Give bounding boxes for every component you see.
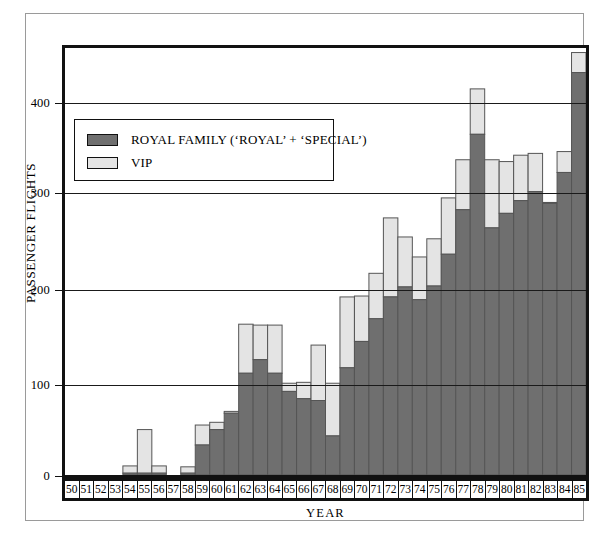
bar-segment: [340, 297, 354, 368]
x-tick-68: 68: [326, 481, 341, 498]
x-tick-54: 54: [123, 481, 138, 498]
x-tick-51: 51: [80, 481, 95, 498]
x-tick-61: 61: [225, 481, 240, 498]
bar-segment: [224, 413, 238, 475]
bar-segment: [369, 319, 383, 475]
x-tick-64: 64: [268, 481, 283, 498]
bar-segment: [137, 430, 151, 474]
x-tick-58: 58: [181, 481, 196, 498]
figure-chart-passenger-flights: PASSENGER FLIGHTS 400 300 200 100 0 ROYA…: [0, 0, 611, 542]
bar-segment: [572, 73, 586, 475]
bar-segment: [412, 300, 426, 475]
bar-segment: [297, 399, 311, 475]
bar-segment: [123, 473, 137, 475]
bar-segment: [514, 201, 528, 475]
x-tick-71: 71: [370, 481, 385, 498]
bar-segment: [253, 325, 267, 360]
gridline-100: [65, 385, 586, 386]
bar-segment: [398, 237, 412, 287]
bar-segment: [311, 345, 325, 400]
bar-segment: [456, 210, 470, 475]
y-tick-label-400: 400: [10, 97, 50, 109]
bar-segment: [441, 254, 455, 475]
bar-segment: [326, 383, 340, 436]
bar-segment: [195, 425, 209, 445]
bar-segment: [427, 239, 441, 286]
bar-segment: [152, 466, 166, 473]
bar-segment: [557, 172, 571, 475]
x-tick-75: 75: [428, 481, 443, 498]
y-tick-mark-100: [55, 385, 62, 386]
bar-segment: [499, 213, 513, 475]
legend-swatch-royal-family: [87, 134, 118, 146]
x-tick-67: 67: [312, 481, 327, 498]
x-tick-52: 52: [94, 481, 109, 498]
bar-segment: [311, 401, 325, 475]
bar-segment: [181, 473, 195, 475]
x-tick-60: 60: [210, 481, 225, 498]
legend-label-royal-family: ROYAL FAMILY (‘ROYAL’ + ‘SPECIAL’): [131, 132, 367, 148]
x-tick-70: 70: [355, 481, 370, 498]
bar-segment: [239, 324, 253, 373]
bar-segment: [572, 53, 586, 73]
plot-area: [62, 45, 589, 478]
x-tick-78: 78: [471, 481, 486, 498]
bar-segment: [543, 203, 557, 475]
bar-segment: [557, 152, 571, 173]
plot-inner: [65, 48, 586, 475]
bar-segment: [499, 162, 513, 214]
bar-segment: [253, 360, 267, 475]
bar-segment: [181, 467, 195, 473]
x-tick-65: 65: [283, 481, 298, 498]
stacked-bars: [65, 48, 586, 475]
x-tick-72: 72: [384, 481, 399, 498]
x-tick-79: 79: [486, 481, 501, 498]
bar-segment: [239, 373, 253, 475]
x-tick-66: 66: [297, 481, 312, 498]
x-tick-63: 63: [254, 481, 269, 498]
x-axis-tick-strip: 5051525354555657585960616263646566676869…: [62, 478, 589, 501]
bar-segment: [152, 473, 166, 475]
x-tick-81: 81: [515, 481, 530, 498]
y-tick-label-300: 300: [10, 187, 50, 199]
x-tick-76: 76: [442, 481, 457, 498]
bar-segment: [354, 341, 368, 475]
bar-segment: [369, 273, 383, 318]
bar-segment: [195, 445, 209, 475]
y-tick-mark-0: [55, 476, 62, 477]
bar-segment: [354, 296, 368, 341]
y-tick-label-100: 100: [10, 379, 50, 391]
bar-segment: [528, 192, 542, 475]
y-tick-label-0: 0: [10, 470, 50, 482]
x-tick-73: 73: [399, 481, 414, 498]
bar-segment: [268, 373, 282, 475]
y-tick-mark-200: [55, 290, 62, 291]
x-tick-80: 80: [500, 481, 515, 498]
x-tick-62: 62: [239, 481, 254, 498]
legend-label-vip: VIP: [131, 155, 153, 171]
x-tick-56: 56: [152, 481, 167, 498]
bar-segment: [427, 286, 441, 475]
legend-item-vip: VIP: [87, 151, 333, 174]
x-tick-77: 77: [457, 481, 472, 498]
bar-segment: [137, 473, 151, 475]
bar-segment: [383, 218, 397, 297]
x-tick-82: 82: [529, 481, 544, 498]
x-tick-59: 59: [196, 481, 211, 498]
bar-segment: [485, 228, 499, 475]
bar-segment: [470, 89, 484, 134]
chart-legend: ROYAL FAMILY (‘ROYAL’ + ‘SPECIAL’) VIP: [74, 119, 334, 181]
bar-segment: [268, 325, 282, 373]
x-axis-title: YEAR: [62, 506, 589, 521]
x-tick-74: 74: [413, 481, 428, 498]
bar-segment: [456, 160, 470, 210]
gridline-300: [65, 193, 586, 194]
x-tick-55: 55: [138, 481, 153, 498]
bar-segment: [441, 198, 455, 254]
bar-segment: [412, 257, 426, 300]
y-axis-title: PASSENGER FLIGHTS: [23, 133, 39, 333]
bar-segment: [123, 466, 137, 473]
x-tick-57: 57: [167, 481, 182, 498]
gridline-200: [65, 290, 586, 291]
x-tick-85: 85: [573, 481, 587, 498]
